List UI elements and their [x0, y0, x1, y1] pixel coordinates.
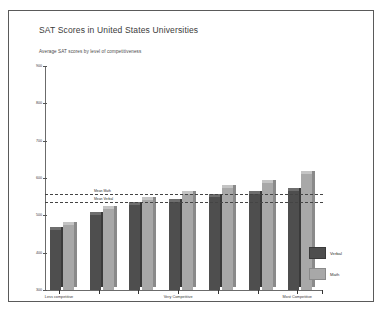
- bar-top: [63, 222, 74, 225]
- y-axis-tick-label: 700: [36, 139, 42, 143]
- bar-face: [288, 191, 299, 290]
- bar-side: [153, 197, 156, 287]
- y-axis-tick-label: 500: [36, 213, 42, 217]
- bar-group: [46, 67, 86, 290]
- legend-item-math[interactable]: Math: [309, 268, 342, 280]
- bar-face: [169, 202, 180, 290]
- x-axis-category-label: Very Competitive: [164, 295, 193, 299]
- x-axis-tick-mark: [218, 290, 219, 294]
- bar-top: [103, 206, 114, 209]
- bar-top: [222, 185, 233, 188]
- y-axis-tick-mark: [43, 290, 47, 291]
- bar-verbal: [90, 215, 101, 290]
- y-axis-tick: 300: [45, 290, 49, 291]
- x-axis-tick-mark: [322, 290, 323, 294]
- legend-swatch-verbal: [309, 247, 326, 259]
- bar-verbal: [129, 205, 140, 290]
- reference-line: [45, 194, 323, 195]
- bar-side: [74, 222, 77, 287]
- bar-top: [50, 227, 61, 230]
- reference-line: [45, 202, 323, 203]
- y-axis-tick-label: 300: [36, 288, 42, 292]
- bar-verbal: [288, 191, 299, 290]
- bar-math: [262, 183, 273, 290]
- x-axis-tick-mark: [138, 290, 139, 294]
- y-axis-tick-label: 600: [36, 176, 42, 180]
- bar-math: [182, 194, 193, 290]
- legend-swatch-math: [309, 268, 326, 280]
- bar-top: [301, 171, 312, 174]
- bar-side: [114, 206, 117, 287]
- bar-top: [90, 212, 101, 215]
- reference-line-label: Mean Math: [93, 189, 112, 193]
- bar-top: [262, 180, 273, 183]
- bar-face: [50, 230, 61, 290]
- bar-face: [63, 225, 74, 290]
- bar-face: [103, 209, 114, 290]
- reference-line-label: Mean Verbal: [93, 197, 114, 201]
- bar-face: [182, 194, 193, 290]
- bar-top: [288, 188, 299, 191]
- bar-verbal: [249, 194, 260, 290]
- bar-group: [245, 67, 285, 290]
- x-axis-tick-mark: [258, 290, 259, 294]
- bar-group: [205, 67, 245, 290]
- bar-face: [142, 200, 153, 290]
- y-axis-tick-label: 400: [36, 251, 42, 255]
- x-axis-line: [45, 290, 323, 291]
- plot-area: 300400500600700800900 Mean MathMean Verb…: [45, 67, 323, 291]
- bar-group: [165, 67, 205, 290]
- x-axis-tick-mark: [297, 290, 298, 294]
- bar-math: [63, 225, 74, 290]
- bar-group: [86, 67, 126, 290]
- bar-math: [222, 188, 233, 290]
- bar-face: [249, 194, 260, 290]
- chart-title: SAT Scores in United States Universities: [39, 25, 198, 35]
- bar-verbal: [50, 230, 61, 290]
- x-axis-category-label: Most Competitive: [283, 295, 312, 299]
- bar-face: [209, 197, 220, 290]
- bar-math: [142, 200, 153, 290]
- bar-face: [222, 188, 233, 290]
- x-axis-category-label: Less competitive: [45, 295, 73, 299]
- bar-face: [129, 205, 140, 290]
- bar-side: [273, 180, 276, 287]
- legend-label: Verbal: [330, 251, 342, 256]
- y-axis-tick-label: 800: [36, 101, 42, 105]
- chart-legend: VerbalMath: [309, 247, 342, 289]
- x-axis-tick-mark: [99, 290, 100, 294]
- bar-side: [193, 191, 196, 287]
- bar-group: [125, 67, 165, 290]
- bar-side: [233, 185, 236, 287]
- x-axis-tick-mark: [178, 290, 179, 294]
- bars-layer: [46, 67, 323, 290]
- bar-verbal: [209, 197, 220, 290]
- x-axis-tick-mark: [59, 290, 60, 294]
- bar-face: [90, 215, 101, 290]
- bar-top: [142, 197, 153, 200]
- chart-frame: SAT Scores in United States Universities…: [8, 10, 374, 302]
- bar-verbal: [169, 202, 180, 290]
- bar-math: [103, 209, 114, 290]
- y-axis-tick-label: 900: [36, 64, 42, 68]
- chart-subtitle: Average SAT scores by level of competiti…: [39, 49, 141, 54]
- legend-item-verbal[interactable]: Verbal: [309, 247, 342, 259]
- legend-label: Math: [330, 272, 339, 277]
- bar-face: [262, 183, 273, 290]
